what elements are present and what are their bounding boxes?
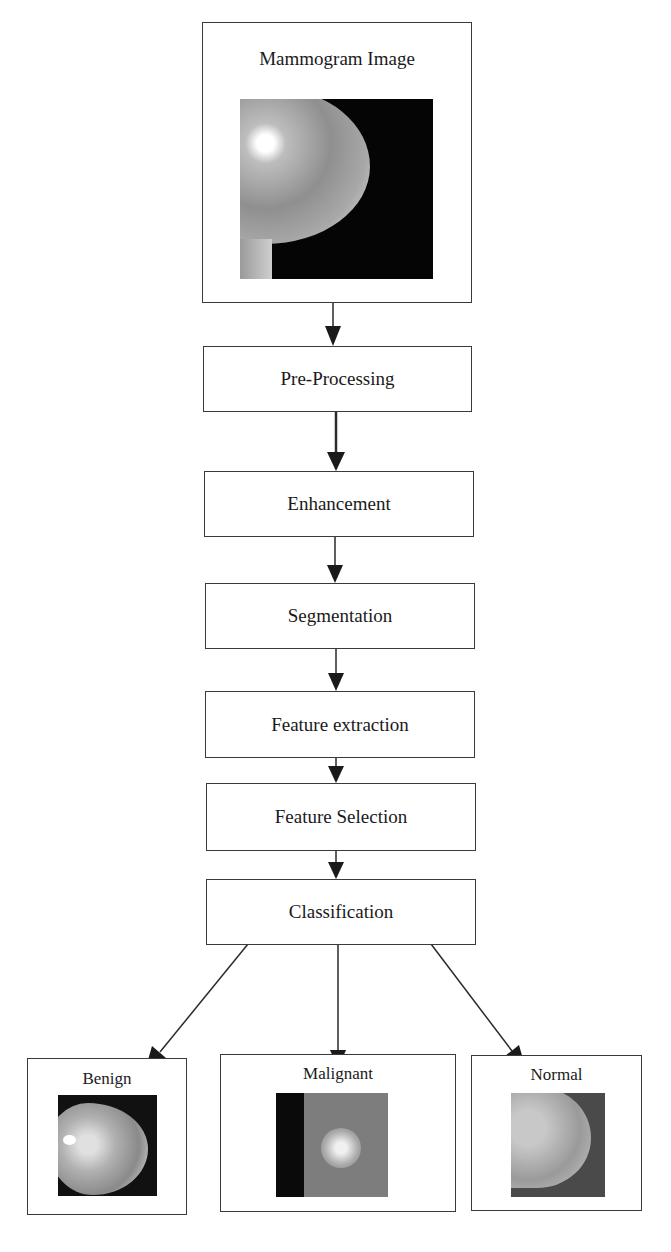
step-label: Feature Selection <box>275 806 407 828</box>
input-title: Mammogram Image <box>203 48 471 70</box>
step-feature-selection: Feature Selection <box>206 783 476 851</box>
step-feature-extraction: Feature extraction <box>205 691 475 758</box>
step-enhancement: Enhancement <box>204 471 474 537</box>
output-label: Benign <box>28 1069 186 1089</box>
step-segmentation: Segmentation <box>205 583 475 649</box>
normal-mammogram-image <box>511 1093 605 1197</box>
output-benign: Benign <box>27 1058 187 1215</box>
step-pre-processing: Pre-Processing <box>203 346 472 412</box>
step-label: Segmentation <box>288 605 392 627</box>
output-normal: Normal <box>471 1055 642 1211</box>
step-label: Feature extraction <box>271 714 409 736</box>
output-label: Normal <box>472 1065 641 1085</box>
output-malignant: Malignant <box>220 1054 456 1212</box>
output-label: Malignant <box>221 1064 455 1084</box>
step-classification: Classification <box>206 879 476 945</box>
step-label: Enhancement <box>287 493 390 515</box>
mammogram-image <box>240 99 433 279</box>
benign-mammogram-image <box>58 1095 157 1196</box>
malignant-mammogram-image <box>276 1093 388 1197</box>
step-label: Classification <box>289 901 393 923</box>
input-box-mammogram: Mammogram Image <box>202 22 472 303</box>
step-label: Pre-Processing <box>281 368 395 390</box>
